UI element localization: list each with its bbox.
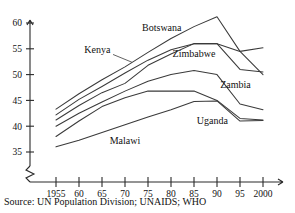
x-tick-label: 95 [235, 189, 245, 199]
y-tick-label: 45 [13, 96, 23, 106]
y-axis-line [27, 20, 33, 166]
axis-break-icon [26, 166, 34, 182]
y-tick-label: 60 [13, 18, 23, 28]
x-tick-label: 90 [212, 189, 222, 199]
x-tick-label: 2000 [254, 189, 273, 199]
kenya-leader-line [113, 54, 132, 62]
series-label-zimbabwe: Zimbabwe [173, 48, 216, 59]
life-expectancy-line-chart: 354045505560 195560657075808590952000 Bo… [0, 0, 295, 213]
series-line-malawi [56, 101, 263, 147]
chart-canvas: 354045505560 195560657075808590952000 Bo… [0, 0, 295, 213]
x-axis-line [30, 179, 283, 185]
y-tick-label: 55 [13, 44, 23, 54]
y-axis-tick-labels: 354045505560 [13, 18, 23, 157]
source-note: Source: UN Population Division; UNAIDS; … [4, 196, 206, 207]
y-tick-label: 50 [13, 70, 23, 80]
series-label-zambia: Zambia [220, 79, 251, 90]
series-label-kenya: Kenya [84, 44, 111, 55]
series-label-malawi: Malawi [110, 135, 141, 146]
series-label-uganda: Uganda [197, 115, 229, 126]
y-tick-label: 35 [13, 147, 23, 157]
y-tick-label: 40 [13, 122, 23, 132]
series-label-botswana: Botswana [142, 22, 182, 33]
